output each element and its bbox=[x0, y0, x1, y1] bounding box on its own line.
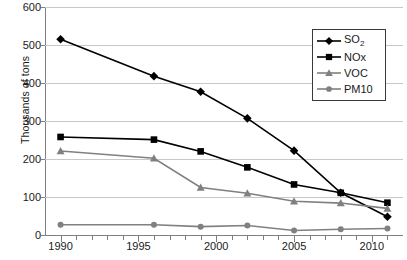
x-tick-label-2000: 2000 bbox=[204, 240, 228, 252]
gridline-300 bbox=[45, 121, 403, 122]
x-tick-mark-2002 bbox=[247, 236, 248, 240]
x-tick-mark-2001 bbox=[232, 236, 233, 240]
y-tick-label-300: 300 bbox=[1, 115, 41, 127]
y-tick-mark-200 bbox=[41, 159, 45, 160]
x-tick-label-2010: 2010 bbox=[360, 240, 384, 252]
x-tick-mark-1992 bbox=[92, 236, 93, 240]
x-tick-mark-1997 bbox=[170, 236, 171, 240]
x-tick-mark-2004 bbox=[278, 236, 279, 240]
legend-marker-diamond-icon bbox=[316, 34, 342, 48]
y-tick-mark-0 bbox=[41, 235, 45, 236]
x-tick-label-1995: 1995 bbox=[126, 240, 150, 252]
y-tick-label-500: 500 bbox=[1, 39, 41, 51]
y-tick-mark-500 bbox=[41, 45, 45, 46]
x-tick-mark-1994 bbox=[123, 236, 124, 240]
x-tick-mark-1996 bbox=[154, 236, 155, 240]
x-tick-mark-2009 bbox=[356, 236, 357, 240]
y-tick-mark-400 bbox=[41, 83, 45, 84]
y-axis-tick-labels: 0100200300400500600 bbox=[0, 0, 41, 260]
legend-label-so2: SO2 bbox=[344, 33, 364, 48]
legend-marker-circle-icon bbox=[316, 82, 342, 96]
x-tick-mark-2008 bbox=[341, 236, 342, 240]
legend-marker-triangle-icon bbox=[316, 66, 342, 80]
gridline-200 bbox=[45, 159, 403, 160]
x-axis-line bbox=[45, 235, 403, 236]
y-tick-label-200: 200 bbox=[1, 153, 41, 165]
x-tick-mark-2003 bbox=[263, 236, 264, 240]
legend-marker-square-icon bbox=[316, 50, 342, 64]
legend-label-pm10: PM10 bbox=[344, 83, 373, 95]
chart-legend: SO2NOxVOCPM10 bbox=[312, 29, 386, 101]
x-tick-mark-1998 bbox=[185, 236, 186, 240]
legend-label-nox: NOx bbox=[344, 51, 366, 63]
x-tick-mark-2006 bbox=[310, 236, 311, 240]
x-tick-label-1990: 1990 bbox=[48, 240, 72, 252]
x-tick-mark-1991 bbox=[76, 236, 77, 240]
y-tick-mark-300 bbox=[41, 121, 45, 122]
legend-item-pm10: PM10 bbox=[313, 81, 385, 97]
y-tick-mark-100 bbox=[41, 197, 45, 198]
legend-label-voc: VOC bbox=[344, 67, 368, 79]
y-tick-label-400: 400 bbox=[1, 77, 41, 89]
x-tick-mark-1993 bbox=[107, 236, 108, 240]
legend-item-nox: NOx bbox=[313, 49, 385, 65]
y-tick-label-600: 600 bbox=[1, 1, 41, 13]
gridline-600 bbox=[45, 7, 403, 8]
y-tick-mark-600 bbox=[41, 7, 45, 8]
x-tick-mark-1999 bbox=[201, 236, 202, 240]
legend-item-so2: SO2 bbox=[313, 33, 385, 49]
x-tick-mark-2007 bbox=[325, 236, 326, 240]
line-chart: Thousands of tons 0100200300400500600 19… bbox=[0, 0, 407, 260]
x-tick-mark-2011 bbox=[387, 236, 388, 240]
y-tick-label-100: 100 bbox=[1, 191, 41, 203]
legend-item-voc: VOC bbox=[313, 65, 385, 81]
gridline-100 bbox=[45, 197, 403, 198]
x-tick-label-2005: 2005 bbox=[282, 240, 306, 252]
y-tick-label-0: 0 bbox=[1, 229, 41, 241]
